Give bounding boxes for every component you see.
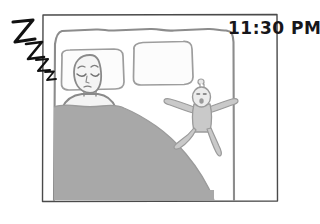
comic-panel: 11:30 PM [0, 0, 320, 224]
adult-head [74, 55, 101, 93]
blanket-fill-bottom [54, 190, 214, 200]
child-mouth [199, 98, 203, 104]
child-torso [193, 104, 212, 132]
pillow-right [133, 41, 193, 85]
timestamp-label: 11:30 PM [228, 18, 320, 38]
child-head [193, 87, 211, 107]
